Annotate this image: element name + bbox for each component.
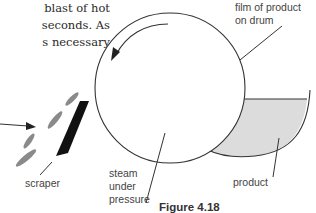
drum [95, 13, 245, 163]
scraper-leader [40, 162, 52, 175]
steam-label-2: under [109, 180, 136, 192]
product-label: product [233, 176, 268, 188]
figure-caption: Figure 4.18 [159, 201, 220, 213]
flake-arrowhead-icon [26, 122, 36, 130]
film-label: film of product [235, 1, 301, 13]
film-leader [240, 26, 282, 60]
scraper-blade [56, 101, 89, 156]
flake-arrow-line [0, 124, 28, 126]
drum-dryer-diagram: film of product on drum scraper steam un… [0, 0, 316, 213]
scraper-label: scraper [25, 177, 61, 189]
steam-label: steam [109, 167, 138, 179]
steam-label-3: pressure [109, 193, 150, 205]
film-label-2: on drum [235, 14, 274, 26]
